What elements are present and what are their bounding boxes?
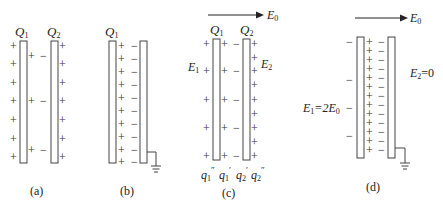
svg-text:−: − (40, 94, 47, 108)
plate-q1 (213, 39, 220, 160)
svg-text:+: + (28, 94, 35, 108)
label-e1-2e0: E1=2E0 (302, 101, 340, 116)
svg-text:+: + (203, 93, 210, 107)
svg-text:q2″: q2″ (251, 165, 265, 183)
svg-text:+: + (203, 121, 210, 135)
surface-charge-labels: q1″ q1′ q2′ q2″ (201, 165, 265, 183)
svg-text:+: + (10, 76, 17, 90)
svg-text:+: + (59, 150, 66, 164)
charges-d: − − − − +− +− +− +− +− +− +− +− +− +− +−… (346, 35, 385, 157)
field-arrow-e0: E0 (355, 11, 421, 26)
svg-text:+: + (10, 132, 17, 146)
panel-d: E0 − − − − +− +− +− +− +− +− +− +− +− +−… (302, 11, 434, 194)
svg-text:+: + (59, 39, 66, 53)
svg-text:+: + (118, 65, 125, 79)
svg-text:+: + (118, 155, 125, 169)
svg-text:−: − (131, 39, 138, 53)
label-e2: E2 (260, 57, 272, 72)
panel-c: E0 Q1 Q2 E1 E2 + + + + + + + + + + − − −… (187, 8, 278, 200)
svg-text:−: − (233, 93, 240, 107)
capacitor-diagram: Q1 Q2 + + + + + + + + + + − − − + + + + … (0, 0, 443, 207)
svg-text:+: + (221, 37, 228, 51)
svg-text:q1′: q1′ (219, 165, 231, 183)
plate-q1 (357, 37, 364, 158)
svg-text:+: + (251, 107, 258, 121)
svg-text:+: + (59, 132, 66, 146)
svg-text:−: − (131, 91, 138, 105)
svg-text:−: − (131, 104, 138, 118)
svg-text:+: + (118, 78, 125, 92)
plate-q1 (109, 41, 116, 163)
svg-text:+: + (10, 150, 17, 164)
caption-d: (d) (366, 180, 380, 194)
svg-text:+: + (221, 64, 228, 78)
svg-text:+: + (59, 76, 66, 90)
svg-text:−: − (131, 78, 138, 92)
label-q1: Q1 (15, 24, 28, 40)
svg-text:−: − (40, 143, 47, 157)
plate-q2 (51, 41, 58, 163)
svg-text:+: + (118, 39, 125, 53)
svg-text:+: + (251, 78, 258, 92)
svg-text:−: − (346, 101, 353, 115)
svg-text:+: + (59, 113, 66, 127)
svg-text:−: − (233, 121, 240, 135)
svg-text:+: + (118, 130, 125, 144)
svg-text:+: + (251, 51, 258, 65)
plate-grounded (140, 41, 147, 163)
plate-grounded (388, 37, 395, 158)
svg-text:+: + (118, 52, 125, 66)
panel-b: Q1 +− +− +− +− +− +− +− +− +− +− (b) (105, 24, 161, 198)
svg-text:+: + (28, 49, 35, 63)
ground-icon (395, 148, 410, 169)
ground-icon (147, 152, 161, 172)
plate-q1 (20, 41, 27, 163)
svg-text:−: − (346, 35, 353, 49)
svg-text:q2′: q2′ (236, 165, 248, 183)
svg-text:+: + (59, 57, 66, 71)
svg-text:E0: E0 (266, 8, 278, 23)
svg-text:q1″: q1″ (201, 165, 215, 183)
svg-text:−: − (40, 49, 47, 63)
svg-text:+: + (10, 113, 17, 127)
svg-text:+: + (251, 37, 258, 51)
panel-a: Q1 Q2 + + + + + + + + + + − − − + + + + … (10, 24, 66, 198)
svg-text:−: − (131, 65, 138, 79)
svg-text:+: + (221, 121, 228, 135)
svg-text:+: + (251, 93, 258, 107)
caption-b: (b) (120, 184, 134, 198)
svg-text:−: − (346, 129, 353, 143)
svg-text:+: + (10, 57, 17, 71)
plate-q2 (243, 39, 250, 160)
svg-text:−: − (378, 143, 385, 157)
svg-text:−: − (131, 52, 138, 66)
svg-text:+: + (251, 64, 258, 78)
svg-text:−: − (346, 73, 353, 87)
svg-text:+: + (251, 121, 258, 135)
svg-text:+: + (251, 135, 258, 149)
label-q1: Q1 (210, 22, 223, 38)
svg-text:+: + (203, 149, 210, 163)
label-q1: Q1 (105, 24, 118, 40)
label-q2: Q2 (240, 22, 253, 38)
label-e1: E1 (187, 60, 199, 75)
label-q2: Q2 (47, 24, 60, 40)
svg-text:+: + (10, 39, 17, 53)
svg-text:−: − (233, 149, 240, 163)
svg-text:+: + (118, 104, 125, 118)
svg-text:−: − (233, 64, 240, 78)
svg-text:+: + (221, 149, 228, 163)
svg-text:+: + (203, 64, 210, 78)
svg-text:+: + (28, 143, 35, 157)
svg-text:E0: E0 (409, 11, 421, 26)
svg-text:−: − (131, 130, 138, 144)
svg-text:+: + (251, 149, 258, 163)
svg-text:+: + (10, 94, 17, 108)
caption-c: (c) (222, 186, 235, 200)
field-arrow-e0: E0 (208, 8, 278, 23)
svg-text:+: + (118, 91, 125, 105)
svg-text:+: + (366, 143, 373, 157)
svg-text:−: − (131, 155, 138, 169)
svg-text:+: + (221, 93, 228, 107)
caption-a: (a) (30, 184, 43, 198)
